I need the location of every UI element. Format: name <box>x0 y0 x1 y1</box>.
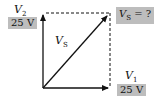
vs-question-text: = ? <box>131 8 151 19</box>
v1-subscript: 1 <box>133 76 137 84</box>
v1-label: V1 <box>125 70 137 84</box>
vs-subscript: S <box>63 41 68 49</box>
vs-arrow <box>43 16 107 88</box>
v1-symbol: V <box>125 69 133 82</box>
v1-value-box: 25 V <box>117 84 146 96</box>
v2-symbol: V <box>14 3 22 16</box>
vs-label: VS <box>55 35 68 49</box>
vs-question-box: VS = ? <box>116 7 154 24</box>
v2-value-box: 25 V <box>8 17 37 29</box>
vs-symbol: V <box>55 34 63 47</box>
